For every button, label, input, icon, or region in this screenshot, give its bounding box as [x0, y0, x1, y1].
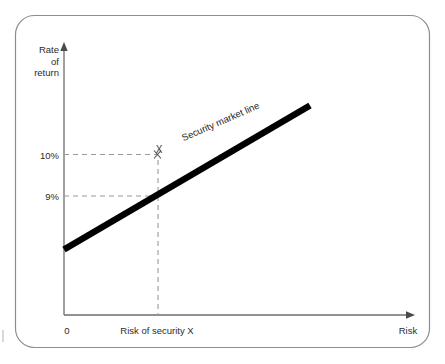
figure-container: Rate of return 10% 9% 0 Risk of security… [0, 0, 445, 364]
y-axis-title: Rate of return [16, 44, 59, 79]
x-axis-title: Risk [386, 325, 430, 337]
y-tick-label-9pct: 9% [26, 191, 59, 203]
y-axis-arrow-icon [60, 42, 67, 51]
x-axis-arrow-icon [406, 311, 415, 318]
chart-svg [0, 0, 445, 364]
y-tick-label-10pct: 10% [26, 150, 59, 162]
figure-border [16, 16, 430, 348]
security-market-line [64, 106, 310, 250]
origin-label: 0 [60, 325, 74, 337]
x-tick-label-risk-of-security-x: Risk of security X [97, 325, 217, 337]
point-x-label: X [152, 144, 166, 156]
